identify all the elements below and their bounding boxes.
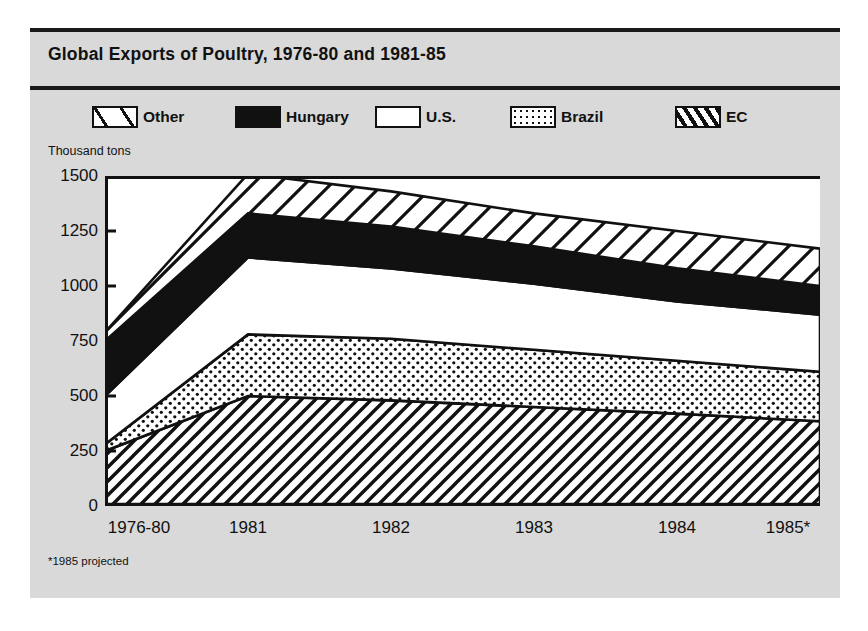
legend-label: Other	[143, 108, 184, 126]
x-tick-1983: 1983	[515, 518, 553, 538]
legend-item-ec: EC	[675, 106, 748, 128]
legend-swatch-brazil	[510, 106, 556, 128]
y-tick-750: 750	[70, 331, 98, 351]
legend-item-hungary: Hungary	[235, 106, 349, 128]
x-tick-197680: 1976-80	[108, 518, 170, 538]
legend-swatch-us	[375, 106, 421, 128]
legend-item-other: Other	[92, 106, 184, 128]
x-axis-tick-labels: 1976-8019811982198319841985*	[105, 518, 820, 544]
legend-swatch-ec	[675, 106, 721, 128]
chart-footnote: *1985 projected	[48, 555, 129, 567]
y-tick-1500: 1500	[60, 166, 98, 186]
legend-label: U.S.	[426, 108, 456, 126]
title-divider	[30, 86, 840, 90]
chart-legend: OtherHungaryU.S.BrazilEC	[30, 98, 840, 142]
x-tick-1985: 1985*	[766, 518, 810, 538]
card-top-rule	[30, 28, 840, 32]
y-axis-tick-labels: 0250500750100012501500	[30, 176, 98, 506]
legend-swatch-hungary	[235, 106, 281, 128]
y-tick-500: 500	[70, 386, 98, 406]
y-tick-1000: 1000	[60, 276, 98, 296]
x-tick-1981: 1981	[229, 518, 267, 538]
legend-label: Hungary	[286, 108, 349, 126]
page-title: Global Exports of Poultry, 1976-80 and 1…	[48, 44, 446, 65]
legend-label: Brazil	[561, 108, 603, 126]
legend-label: EC	[726, 108, 748, 126]
y-axis-unit-label: Thousand tons	[48, 144, 131, 158]
legend-swatch-other	[92, 106, 138, 128]
legend-item-brazil: Brazil	[510, 106, 603, 128]
plot-area	[105, 176, 820, 506]
y-tick-1250: 1250	[60, 221, 98, 241]
stacked-area-chart	[105, 176, 820, 506]
y-tick-0: 0	[89, 496, 98, 516]
x-tick-1982: 1982	[372, 518, 410, 538]
chart-card: Global Exports of Poultry, 1976-80 and 1…	[30, 28, 840, 598]
y-tick-250: 250	[70, 441, 98, 461]
legend-item-us: U.S.	[375, 106, 456, 128]
x-tick-1984: 1984	[658, 518, 696, 538]
